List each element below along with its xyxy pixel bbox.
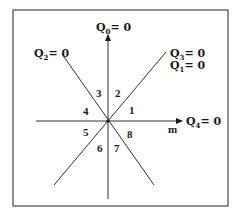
region-label-3: 3 bbox=[96, 87, 102, 99]
diagram-canvas: Q0= 0 Q2= 0 Q3= 0 Q1= 0 Q4= 0 m 1 2 3 4 … bbox=[0, 0, 241, 218]
label-q0: Q0= 0 bbox=[96, 21, 132, 36]
line-q3-q1 bbox=[54, 52, 166, 185]
region-label-1: 1 bbox=[129, 104, 135, 116]
region-label-2: 2 bbox=[115, 87, 121, 99]
region-label-5: 5 bbox=[83, 126, 89, 138]
label-m-axis: m bbox=[168, 123, 177, 135]
label-q2: Q2= 0 bbox=[34, 47, 70, 62]
diagram-frame bbox=[13, 10, 228, 206]
region-label-7: 7 bbox=[114, 142, 120, 154]
region-label-4: 4 bbox=[83, 105, 89, 117]
origin-point bbox=[106, 119, 109, 122]
label-q4: Q4= 0 bbox=[186, 115, 222, 130]
label-q1: Q1= 0 bbox=[170, 59, 206, 74]
region-label-8: 8 bbox=[127, 128, 133, 140]
region-label-6: 6 bbox=[97, 142, 103, 154]
